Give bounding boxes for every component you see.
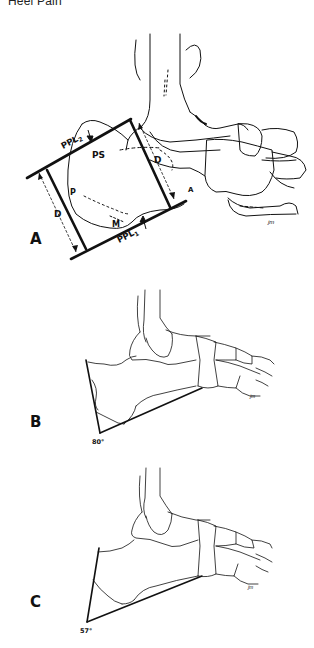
artist-signature: jm — [267, 219, 274, 225]
label-p: P — [70, 188, 76, 197]
label-d-left: D — [54, 209, 61, 219]
angle-b-value: 80° — [92, 438, 104, 446]
label-ps: PS — [92, 150, 105, 160]
figure-c-label: C — [30, 593, 41, 611]
figure-a-drawing: PPL2 PS P M PPL1 A D D jm 80° — [0, 0, 314, 648]
angle-c-value: 57° — [80, 627, 92, 635]
label-m: M — [112, 220, 120, 229]
label-a: A — [188, 186, 194, 194]
label-d-right: D — [154, 155, 161, 165]
figure-b-label: B — [30, 413, 41, 431]
artist-signature-b: jm — [249, 393, 255, 399]
artist-signature-c: jm — [247, 584, 253, 590]
